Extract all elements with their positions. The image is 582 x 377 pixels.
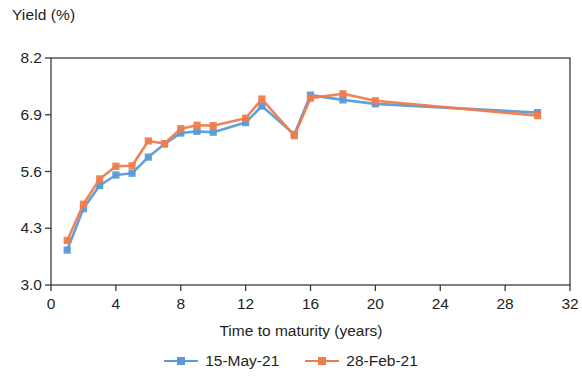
yield-curve-chart: Yield (%) 3.04.35.66.98.2 04812162024283… — [0, 0, 582, 377]
x-tick-label: 12 — [226, 296, 266, 312]
x-tick-label: 4 — [96, 296, 136, 312]
data-point-marker — [339, 90, 346, 97]
legend-label: 15-May-21 — [205, 352, 279, 370]
x-axis-title-text: Time to maturity (years) — [219, 322, 382, 339]
plot-area — [0, 0, 582, 377]
data-point-marker — [291, 132, 298, 139]
data-point-marker — [112, 163, 119, 170]
data-point-marker — [64, 246, 71, 253]
data-point-marker — [534, 112, 541, 119]
data-point-marker — [96, 175, 103, 182]
data-point-marker — [307, 95, 314, 102]
legend-marker — [177, 357, 185, 365]
y-tick-label: 8.2 — [2, 50, 42, 66]
x-tick-label: 28 — [485, 296, 525, 312]
data-point-marker — [193, 122, 200, 129]
x-tick-label: 24 — [420, 296, 460, 312]
data-point-marker — [210, 122, 217, 129]
data-point-marker — [177, 125, 184, 132]
data-point-marker — [258, 95, 265, 102]
x-tick-label: 20 — [355, 296, 395, 312]
data-point-marker — [145, 137, 152, 144]
data-point-marker — [161, 140, 168, 147]
x-tick-label: 8 — [161, 296, 201, 312]
legend-swatch-icon — [164, 355, 198, 367]
data-point-marker — [128, 162, 135, 169]
legend-item[interactable]: 15-May-21 — [164, 352, 279, 370]
legend-marker — [318, 357, 326, 365]
x-axis-title: Time to maturity (years) — [0, 322, 582, 340]
data-point-marker — [372, 97, 379, 104]
x-tick-label: 16 — [291, 296, 331, 312]
x-tick-label: 0 — [31, 296, 71, 312]
data-point-marker — [64, 237, 71, 244]
data-point-marker — [242, 115, 249, 122]
data-point-marker — [128, 170, 135, 177]
data-point-marker — [210, 129, 217, 136]
legend-swatch-icon — [305, 355, 339, 367]
legend-item[interactable]: 28-Feb-21 — [305, 352, 418, 370]
y-tick-label: 6.9 — [2, 107, 42, 123]
x-tick-label: 32 — [550, 296, 582, 312]
chart-legend: 15-May-2128-Feb-21 — [0, 352, 582, 370]
y-tick-label: 3.0 — [2, 277, 42, 293]
y-tick-label: 5.6 — [2, 164, 42, 180]
data-point-marker — [145, 153, 152, 160]
y-tick-label: 4.3 — [2, 220, 42, 236]
data-point-marker — [80, 201, 87, 208]
legend-label: 28-Feb-21 — [346, 352, 418, 370]
data-point-marker — [112, 171, 119, 178]
